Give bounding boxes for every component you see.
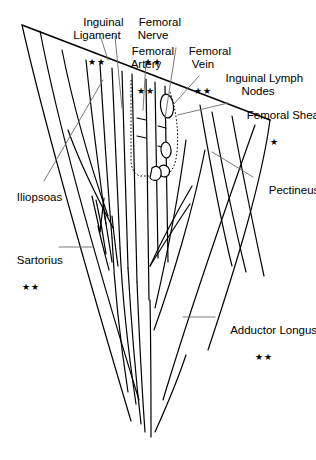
bottom-right-line: [155, 355, 186, 432]
label-femoral-sheath-marker: ★: [234, 137, 314, 147]
label-femoral-sheath-text: Femoral Sheath: [247, 109, 316, 121]
label-femoral-artery-marker: ★★: [119, 86, 173, 96]
label-sartorius-text: Sartorius: [17, 254, 63, 266]
artery-break-lower: [137, 136, 146, 138]
lymph-node-4: [150, 166, 161, 180]
pectineus-fiber-a: [200, 105, 232, 266]
label-adductor-longus-text: Adductor Longus: [230, 324, 316, 336]
anatomical-diagram: Inguinal Ligament ★★ Femoral Nerve ★★ Fe…: [0, 0, 316, 460]
label-adductor-longus-marker: ★★: [218, 352, 310, 362]
adductor-convergence-a: [150, 186, 192, 266]
label-femoral-sheath: Femoral Sheath ★: [234, 95, 316, 174]
label-adductor-longus: Adductor Longus ★★: [218, 310, 314, 389]
label-inguinal-lymph-nodes-text: Inguinal Lymph Nodes: [226, 72, 304, 98]
lower-fan-c: [128, 268, 141, 424]
lower-fan-d: [137, 282, 145, 432]
vein-break-upper: [158, 126, 166, 128]
adductor-inner-b: [154, 150, 205, 330]
label-iliopsoas-text: Iliopsoas: [17, 191, 62, 203]
label-femoral-artery-text: Femoral Artery: [131, 45, 174, 71]
label-femoral-artery: Femoral Artery ★★: [119, 31, 173, 123]
label-iliopsoas: Iliopsoas: [4, 177, 68, 218]
central-axis-line: [150, 300, 151, 437]
label-inguinal-ligament-text: Inguinal Ligament: [73, 16, 123, 42]
label-pectineus-text: Pectineus: [269, 184, 316, 196]
label-pectineus: Pectineus: [256, 170, 316, 211]
label-sartorius: Sartorius ★★: [4, 240, 62, 319]
lymph-node-2: [160, 142, 172, 159]
lower-fan-a: [112, 238, 128, 392]
label-sartorius-marker: ★★: [4, 282, 58, 292]
